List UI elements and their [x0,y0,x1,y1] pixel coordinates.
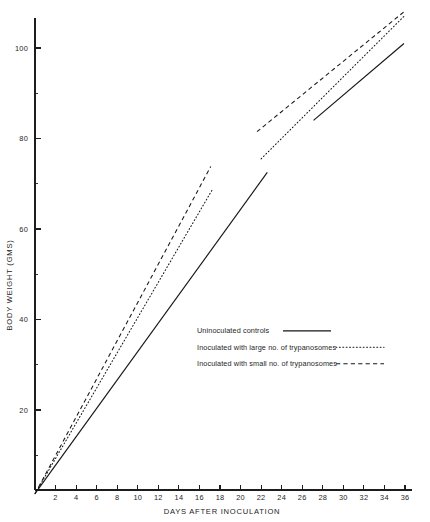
x-tick-label-20: 20 [236,493,245,502]
y-tick-label-60: 60 [19,225,28,234]
series-solid-segment-2 [314,43,404,120]
x-tick-label-26: 26 [298,493,307,502]
axes-group [35,18,412,490]
series-dotted [35,16,404,493]
x-tick-label-18: 18 [216,493,225,502]
x-axis-title: DAYS AFTER INOCULATION [164,507,281,516]
x-tick-label-22: 22 [257,493,266,502]
data-series-group [35,12,404,494]
x-tick-label-4: 4 [74,493,78,502]
x-tick-label-28: 28 [318,493,327,502]
chart-canvas: 20406080100 2468101214161820222426283032… [0,0,430,522]
x-tick-label-10: 10 [133,493,142,502]
x-tick-label-30: 30 [339,493,348,502]
y-tick-label-20: 20 [19,406,28,415]
chart-figure: 20406080100 2468101214161820222426283032… [0,0,430,522]
series-dotted-segment-1 [35,191,212,494]
y-axis-major-ticks [35,48,41,410]
x-tick-label-36: 36 [401,493,410,502]
x-tick-label-14: 14 [175,493,184,502]
x-tick-label-34: 34 [380,493,389,502]
x-tick-label-8: 8 [115,493,119,502]
x-tick-label-24: 24 [277,493,286,502]
chart-legend: Uninoculated controlsInoculated with lar… [197,326,384,368]
x-tick-label-12: 12 [154,493,163,502]
y-tick-label-100: 100 [15,44,28,53]
x-tick-label-2: 2 [53,493,57,502]
x-tick-label-16: 16 [195,493,204,502]
x-axis-major-ticks [56,485,405,491]
y-axis-tick-labels: 20406080100 [15,44,28,415]
y-tick-label-80: 80 [19,134,28,143]
y-axis-title: BODY WEIGHT (GMS) [5,240,14,331]
series-dotted-segment-2 [261,16,404,159]
y-tick-label-40: 40 [19,315,28,324]
legend-label-1: Inoculated with large no. of trypanosome… [197,343,336,352]
x-axis-tick-labels: 24681012141618202224262830323436 [53,493,409,502]
series-dashed-segment-1 [35,167,211,494]
series-solid [35,43,404,493]
series-dashed [35,12,404,494]
series-dashed-segment-2 [257,12,404,132]
legend-label-2: Inoculated with small no. of trypanosome… [197,359,337,368]
legend-label-0: Uninoculated controls [197,326,270,335]
x-tick-label-6: 6 [94,493,98,502]
x-tick-label-32: 32 [360,493,369,502]
